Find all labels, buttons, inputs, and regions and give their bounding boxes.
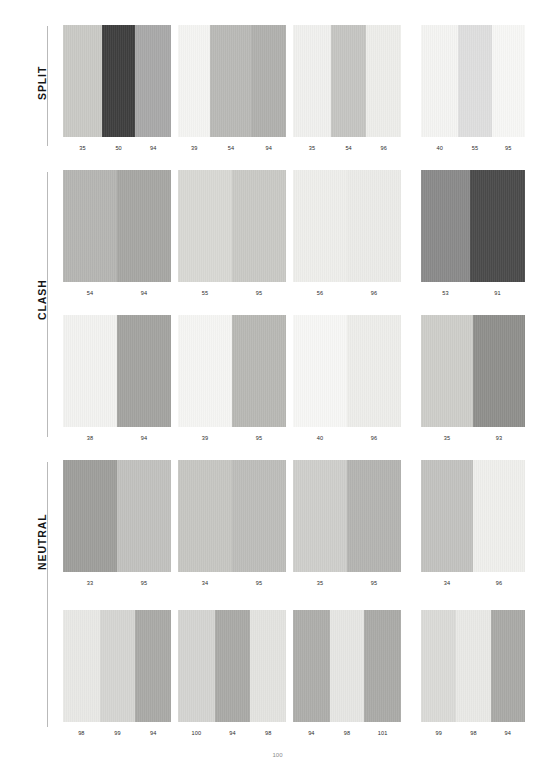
color-band[interactable] bbox=[347, 460, 401, 572]
swatch-card[interactable] bbox=[421, 460, 525, 572]
color-band[interactable] bbox=[178, 170, 232, 282]
swatch-card[interactable] bbox=[293, 170, 401, 282]
swatch-labels: 405595 bbox=[421, 142, 525, 154]
color-band[interactable] bbox=[117, 315, 171, 427]
swatch-card[interactable] bbox=[178, 170, 286, 282]
color-band[interactable] bbox=[421, 610, 456, 722]
color-band[interactable] bbox=[421, 170, 470, 282]
color-band-label: 35 bbox=[293, 577, 347, 589]
color-band[interactable] bbox=[470, 170, 525, 282]
section-rule bbox=[47, 462, 48, 727]
color-band[interactable] bbox=[232, 315, 286, 427]
color-band-label: 56 bbox=[293, 287, 347, 299]
swatch-labels: 9498101 bbox=[293, 727, 401, 739]
color-band-label: 98 bbox=[330, 727, 365, 739]
color-band-label: 94 bbox=[135, 727, 171, 739]
swatch-card[interactable] bbox=[63, 610, 171, 722]
color-band[interactable] bbox=[331, 25, 367, 137]
swatch-card[interactable] bbox=[421, 610, 525, 722]
color-band-label: 95 bbox=[232, 432, 286, 444]
color-band[interactable] bbox=[473, 460, 525, 572]
color-band[interactable] bbox=[458, 25, 491, 137]
swatch-labels: 3495 bbox=[178, 577, 286, 589]
color-band[interactable] bbox=[421, 315, 473, 427]
color-band[interactable] bbox=[117, 170, 171, 282]
color-band[interactable] bbox=[293, 170, 347, 282]
color-band[interactable] bbox=[215, 610, 251, 722]
swatch-card[interactable] bbox=[63, 25, 171, 137]
swatch-labels: 5494 bbox=[63, 287, 171, 299]
color-band[interactable] bbox=[135, 25, 171, 137]
color-band[interactable] bbox=[364, 610, 401, 722]
color-band[interactable] bbox=[63, 25, 102, 137]
swatch-card[interactable] bbox=[293, 460, 401, 572]
color-band[interactable] bbox=[63, 460, 117, 572]
color-band[interactable] bbox=[421, 25, 458, 137]
color-band[interactable] bbox=[135, 610, 171, 722]
color-band-label: 99 bbox=[100, 727, 136, 739]
color-band[interactable] bbox=[232, 460, 286, 572]
swatch-labels: 999894 bbox=[421, 727, 525, 739]
swatch-labels: 355094 bbox=[63, 142, 171, 154]
color-swatch-plate: SPLIT355094395494355496405595CLASH549455… bbox=[0, 0, 555, 763]
color-band[interactable] bbox=[102, 25, 135, 137]
swatch-card[interactable] bbox=[178, 610, 286, 722]
color-band-label: 33 bbox=[63, 577, 117, 589]
swatch-card[interactable] bbox=[293, 25, 401, 137]
swatch-card[interactable] bbox=[293, 315, 401, 427]
color-band-label: 101 bbox=[364, 727, 401, 739]
color-band[interactable] bbox=[347, 170, 401, 282]
color-band-label: 91 bbox=[470, 287, 525, 299]
color-band[interactable] bbox=[473, 315, 525, 427]
color-band[interactable] bbox=[63, 315, 117, 427]
swatch-card[interactable] bbox=[421, 25, 525, 137]
swatch-card[interactable] bbox=[421, 170, 525, 282]
swatch-labels: 1009498 bbox=[178, 727, 286, 739]
color-band[interactable] bbox=[178, 315, 232, 427]
color-band[interactable] bbox=[293, 610, 330, 722]
color-band[interactable] bbox=[492, 25, 525, 137]
color-band[interactable] bbox=[63, 170, 117, 282]
color-band-label: 98 bbox=[456, 727, 490, 739]
swatch-card[interactable] bbox=[63, 460, 171, 572]
swatch-card[interactable] bbox=[63, 170, 171, 282]
color-band-label: 54 bbox=[210, 142, 251, 154]
color-band[interactable] bbox=[330, 610, 365, 722]
color-band[interactable] bbox=[178, 460, 232, 572]
color-band[interactable] bbox=[491, 610, 525, 722]
color-band[interactable] bbox=[293, 460, 347, 572]
color-band-label: 95 bbox=[347, 577, 401, 589]
color-band[interactable] bbox=[250, 610, 286, 722]
swatch-labels: 3593 bbox=[421, 432, 525, 444]
color-band[interactable] bbox=[293, 315, 347, 427]
swatch-card[interactable] bbox=[421, 315, 525, 427]
color-band[interactable] bbox=[178, 610, 215, 722]
color-band[interactable] bbox=[347, 315, 401, 427]
color-band-label: 35 bbox=[63, 142, 102, 154]
swatch-card[interactable] bbox=[293, 610, 401, 722]
color-band[interactable] bbox=[178, 25, 210, 137]
color-band[interactable] bbox=[117, 460, 171, 572]
color-band[interactable] bbox=[456, 610, 490, 722]
color-band[interactable] bbox=[210, 25, 251, 137]
color-band-label: 93 bbox=[473, 432, 525, 444]
color-band-label: 53 bbox=[421, 287, 470, 299]
color-band[interactable] bbox=[100, 610, 136, 722]
color-band-label: 94 bbox=[117, 432, 171, 444]
swatch-card[interactable] bbox=[63, 315, 171, 427]
color-band[interactable] bbox=[293, 25, 331, 137]
color-band-label: 39 bbox=[178, 432, 232, 444]
color-band-label: 34 bbox=[421, 577, 473, 589]
color-band[interactable] bbox=[251, 25, 286, 137]
swatch-card[interactable] bbox=[178, 315, 286, 427]
color-band[interactable] bbox=[366, 25, 401, 137]
swatch-labels: 4096 bbox=[293, 432, 401, 444]
swatch-card[interactable] bbox=[178, 25, 286, 137]
color-band-label: 40 bbox=[421, 142, 458, 154]
color-band[interactable] bbox=[232, 170, 286, 282]
color-band[interactable] bbox=[63, 610, 100, 722]
swatch-card[interactable] bbox=[178, 460, 286, 572]
color-band-label: 55 bbox=[178, 287, 232, 299]
color-band[interactable] bbox=[421, 460, 473, 572]
color-band-label: 96 bbox=[473, 577, 525, 589]
